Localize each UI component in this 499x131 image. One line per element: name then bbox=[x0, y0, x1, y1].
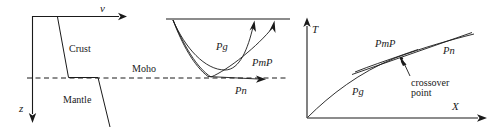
crossover-leader-arrowhead bbox=[401, 58, 407, 66]
z-axis-arrowhead bbox=[29, 113, 36, 123]
pmp-traveltime-curve bbox=[355, 50, 418, 73]
pn-curve-label: Pn bbox=[442, 45, 455, 56]
pmp-curve-label: PmP bbox=[374, 38, 396, 49]
v-axis-arrowhead bbox=[118, 13, 127, 20]
mantle-velocity-line bbox=[98, 78, 110, 128]
pmp-ray-label: PmP bbox=[251, 57, 273, 68]
v-axis-label: v bbox=[100, 2, 105, 14]
seismic-phases-figure: v z Crust Mantle Moho Pg PmP Pn bbox=[0, 0, 499, 131]
pg-curve-label: Pg bbox=[351, 86, 364, 97]
pg-ray-arrowhead bbox=[250, 21, 257, 33]
figure-canvas: v z Crust Mantle Moho Pg PmP Pn bbox=[0, 0, 499, 131]
crossover-annotation-line2: point bbox=[411, 87, 432, 98]
crust-layer-label: Crust bbox=[69, 43, 91, 54]
pn-ray-label: Pn bbox=[234, 85, 247, 96]
pg-ray-label: Pg bbox=[215, 41, 228, 52]
panel-travel-time-curves: X T Pg PmP Pn crossover point bbox=[303, 18, 487, 122]
crust-velocity-line bbox=[58, 17, 69, 78]
panel-ray-paths: Pg PmP Pn bbox=[166, 19, 290, 96]
moho-label: Moho bbox=[132, 63, 156, 74]
t-axis-label: T bbox=[312, 23, 319, 35]
panel-velocity-depth-model: v z Crust Mantle Moho bbox=[18, 2, 169, 127]
x-axis-label: X bbox=[451, 100, 460, 112]
t-axis-arrowhead bbox=[303, 18, 310, 28]
mantle-layer-label: Mantle bbox=[63, 94, 92, 105]
z-axis-label: z bbox=[18, 102, 24, 114]
x-axis-arrowhead bbox=[477, 114, 487, 121]
